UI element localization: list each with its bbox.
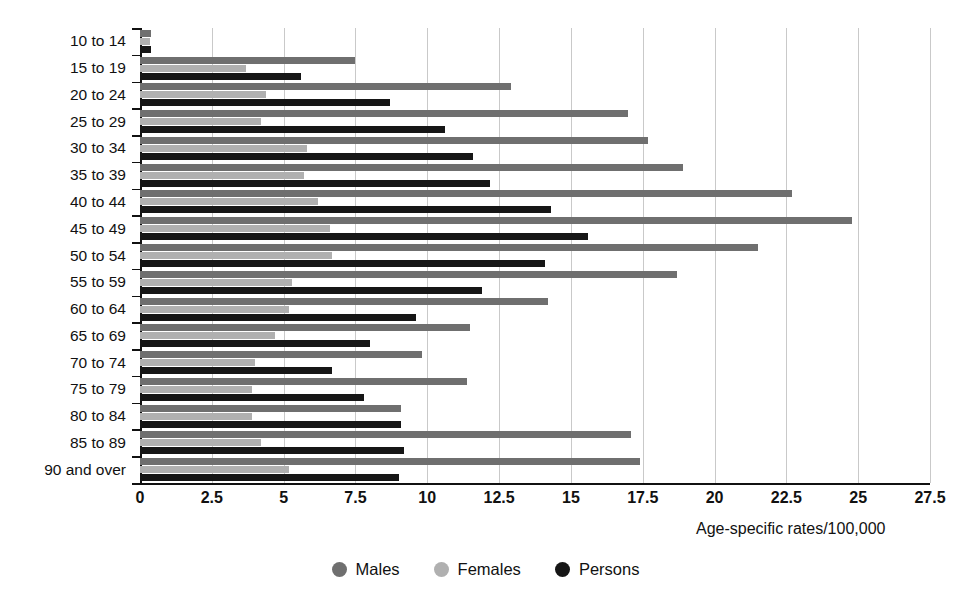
bar-group — [140, 82, 930, 109]
bar-males — [140, 351, 422, 358]
bar-males — [140, 190, 792, 197]
bar-group — [140, 28, 930, 55]
y-axis-tick — [132, 162, 140, 164]
bar-persons — [140, 421, 401, 428]
gridline — [930, 28, 931, 483]
y-axis-tick — [132, 322, 140, 324]
y-axis-label: 80 to 84 — [70, 408, 126, 424]
y-axis-label: 90 and over — [44, 462, 126, 478]
legend-swatch-icon — [332, 562, 347, 577]
age-specific-rates-bar-chart: 10 to 1415 to 1920 to 2425 to 2930 to 34… — [0, 0, 971, 603]
bar-persons — [140, 314, 416, 321]
bar-persons — [140, 73, 301, 80]
x-axis-tick-label: 17.5 — [627, 489, 658, 507]
bar-persons — [140, 287, 482, 294]
bar-group — [140, 322, 930, 349]
legend-item-persons[interactable]: Persons — [555, 560, 640, 579]
y-axis-label: 10 to 14 — [70, 33, 126, 49]
bar-persons — [140, 367, 332, 374]
bar-group — [140, 403, 930, 430]
y-axis-label: 20 to 24 — [70, 87, 126, 103]
bar-persons — [140, 233, 588, 240]
bar-group — [140, 269, 930, 296]
chart-legend: MalesFemalesPersons — [0, 552, 971, 586]
y-axis-label: 55 to 59 — [70, 274, 126, 290]
y-axis-label: 25 to 29 — [70, 114, 126, 130]
y-axis-tick — [132, 28, 140, 30]
bar-group — [140, 376, 930, 403]
y-axis-label: 15 to 19 — [70, 60, 126, 76]
bar-females — [140, 306, 289, 313]
bar-males — [140, 137, 648, 144]
x-axis-tick-label: 12.5 — [484, 489, 515, 507]
bar-group — [140, 108, 930, 135]
bar-group — [140, 162, 930, 189]
x-axis-tick-label: 10 — [418, 489, 436, 507]
bar-females — [140, 38, 150, 45]
bar-persons — [140, 394, 364, 401]
y-axis-tick — [132, 135, 140, 137]
x-axis-line — [140, 483, 930, 485]
y-axis-label: 60 to 64 — [70, 301, 126, 317]
y-axis-tick — [132, 403, 140, 405]
bar-females — [140, 172, 304, 179]
legend-item-males[interactable]: Males — [332, 560, 400, 579]
y-axis-label: 40 to 44 — [70, 194, 126, 210]
y-axis-category-labels: 10 to 1415 to 1920 to 2425 to 2930 to 34… — [0, 28, 134, 483]
bar-group — [140, 55, 930, 82]
y-axis-label: 85 to 89 — [70, 435, 126, 451]
x-axis-tick-label: 27.5 — [914, 489, 945, 507]
plot-area — [140, 28, 930, 483]
legend-label: Persons — [579, 560, 640, 579]
x-axis-tick-label: 2.5 — [201, 489, 223, 507]
bar-persons — [140, 447, 404, 454]
bar-males — [140, 271, 677, 278]
y-axis-label: 70 to 74 — [70, 355, 126, 371]
bar-males — [140, 244, 758, 251]
y-axis-tick — [132, 55, 140, 57]
y-axis-tick — [132, 82, 140, 84]
y-axis-tick — [132, 429, 140, 431]
y-axis-tick — [132, 296, 140, 298]
bar-persons — [140, 153, 473, 160]
bar-group — [140, 296, 930, 323]
bar-females — [140, 359, 255, 366]
y-axis-tick — [132, 215, 140, 217]
bar-males — [140, 378, 467, 385]
bar-persons — [140, 99, 390, 106]
bar-males — [140, 298, 548, 305]
bar-females — [140, 91, 266, 98]
y-axis-tick — [132, 376, 140, 378]
bar-males — [140, 431, 631, 438]
bar-group — [140, 135, 930, 162]
x-axis-tick-label: 20 — [706, 489, 724, 507]
y-axis-tick — [132, 189, 140, 191]
bar-males — [140, 57, 355, 64]
legend-label: Males — [356, 560, 400, 579]
y-axis-tick — [132, 108, 140, 110]
bar-males — [140, 83, 511, 90]
bar-males — [140, 30, 151, 37]
legend-item-females[interactable]: Females — [434, 560, 521, 579]
bar-persons — [140, 340, 370, 347]
bar-males — [140, 110, 628, 117]
bar-females — [140, 386, 252, 393]
legend-swatch-icon — [434, 562, 449, 577]
x-axis-tick-label: 0 — [136, 489, 145, 507]
y-axis-tick — [132, 349, 140, 351]
bar-males — [140, 217, 852, 224]
y-axis-tick — [132, 242, 140, 244]
y-axis-label: 65 to 69 — [70, 328, 126, 344]
legend-label: Females — [458, 560, 521, 579]
bar-males — [140, 458, 640, 465]
x-axis-title: Age-specific rates/100,000 — [696, 520, 885, 538]
y-axis-label: 75 to 79 — [70, 381, 126, 397]
x-axis-tick-label: 22.5 — [771, 489, 802, 507]
bar-group — [140, 189, 930, 216]
bar-group — [140, 456, 930, 483]
bar-males — [140, 324, 470, 331]
bar-group — [140, 349, 930, 376]
y-axis-label: 35 to 39 — [70, 167, 126, 183]
bar-females — [140, 413, 252, 420]
x-axis-tick-label: 15 — [562, 489, 580, 507]
